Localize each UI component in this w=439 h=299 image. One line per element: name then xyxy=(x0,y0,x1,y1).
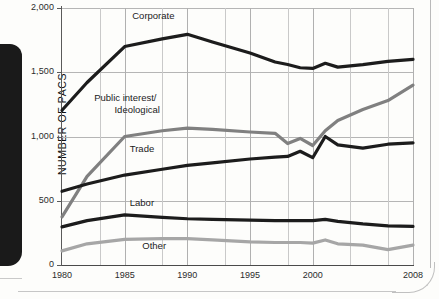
y-axis-tick xyxy=(57,201,62,202)
series-label-line2: Ideological xyxy=(94,104,180,116)
y-axis-tick-label: 0 xyxy=(8,259,54,269)
x-axis-tick-label: 1995 xyxy=(230,270,270,280)
y-axis-tick-label: 2,000 xyxy=(8,2,54,12)
series-lines xyxy=(0,0,439,299)
series-label-line1: Public interest/ xyxy=(94,92,180,104)
series-line-other xyxy=(62,239,413,251)
series-label-trade: Trade xyxy=(130,143,154,154)
y-axis-tick xyxy=(57,265,62,266)
series-line-trade xyxy=(62,137,413,192)
y-axis-tick xyxy=(57,137,62,138)
series-label-public-interest: Public interest/Ideological xyxy=(94,92,180,116)
y-axis-tick xyxy=(57,72,62,73)
series-label-labor: Labor xyxy=(130,197,154,208)
x-axis-tick-label: 1990 xyxy=(167,270,207,280)
x-axis-tick-label: 1980 xyxy=(42,270,82,280)
series-label-corporate: Corporate xyxy=(132,10,174,21)
x-axis-tick-label: 2008 xyxy=(393,270,433,280)
x-axis-tick-label: 2000 xyxy=(293,270,333,280)
series-line-labor xyxy=(62,215,413,227)
scanned-chart-page: NUMBER OF PACS CorporatePublic interest/… xyxy=(0,0,439,299)
y-axis-tick-label: 1,000 xyxy=(8,131,54,141)
series-label-other: Other xyxy=(142,240,166,251)
y-axis-tick xyxy=(57,8,62,9)
y-axis-tick-label: 500 xyxy=(8,195,54,205)
x-axis-tick-label: 1985 xyxy=(105,270,145,280)
y-axis-tick-label: 1,500 xyxy=(8,66,54,76)
